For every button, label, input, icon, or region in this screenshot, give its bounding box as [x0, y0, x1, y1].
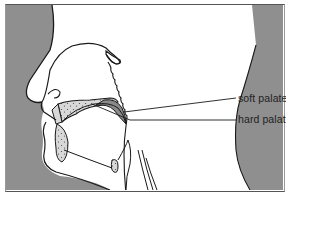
soft-palate-leader	[124, 98, 236, 112]
hyoid-bone	[111, 160, 118, 173]
lower-jaw-bone	[55, 124, 68, 162]
larynx-line-2	[142, 150, 153, 190]
label-soft-palate: soft palate	[238, 92, 286, 104]
label-hard-palate: hard palate	[238, 113, 286, 125]
nostril	[48, 89, 60, 98]
pharynx-wall	[108, 62, 127, 194]
tongue-floor	[64, 150, 112, 168]
